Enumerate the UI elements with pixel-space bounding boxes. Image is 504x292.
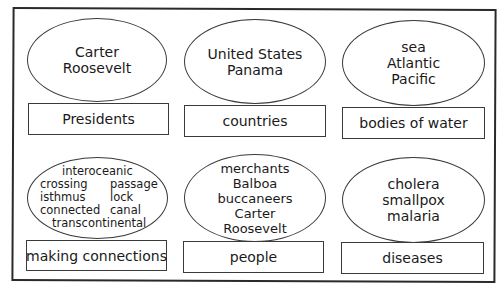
word: Balboa [233, 176, 278, 191]
word: Atlantic [387, 55, 440, 71]
word: buccaneers [217, 191, 292, 206]
word: cholera [388, 176, 440, 192]
word: sea [401, 39, 426, 55]
word: United States [208, 46, 303, 62]
worksheet-title-fragment [150, 0, 350, 3]
word-ellipse-presidents: Carter Roosevelt [27, 18, 167, 102]
word-ellipse-countries: United States Panama [184, 19, 326, 104]
category-box-making-connections: making connections [26, 240, 167, 271]
category-box-presidents: Presidents [28, 103, 169, 135]
category-box-bodies-of-water: bodies of water [342, 107, 485, 139]
word-ellipse-bodies-of-water: sea Atlantic Pacific [342, 20, 485, 106]
word: Panama [227, 62, 283, 78]
category-box-diseases: diseases [341, 242, 484, 274]
word: Pacific [391, 71, 436, 87]
word: merchants [220, 161, 289, 176]
word-ellipse-making-connections: interoceanic crossing passage isthmus lo… [27, 157, 168, 239]
word: Carter [75, 44, 119, 60]
word: Roosevelt [63, 60, 131, 76]
word: malaria [387, 208, 440, 224]
category-box-people: people [183, 241, 324, 273]
word-ellipse-diseases: cholera smallpox malaria [342, 157, 485, 243]
word-ellipse-people: merchants Balboa buccaneers Carter Roose… [184, 154, 326, 242]
word: Carter [235, 206, 276, 221]
word: smallpox [382, 192, 445, 208]
word: transcontinental [52, 217, 146, 230]
word: Roosevelt [223, 221, 287, 236]
category-box-countries: countries [184, 105, 326, 137]
